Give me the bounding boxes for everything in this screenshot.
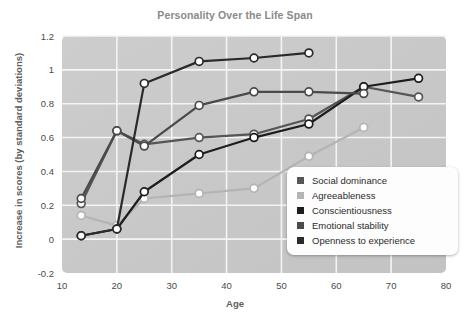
data-point-marker	[360, 124, 368, 132]
y-axis-tick-label: 0	[49, 234, 54, 245]
data-point-marker	[77, 232, 85, 240]
legend-item[interactable]: Social dominance	[295, 173, 450, 188]
data-point-marker	[305, 152, 313, 160]
x-axis-ticks: 1020304050607080	[57, 280, 452, 291]
data-point-marker	[140, 142, 148, 150]
legend-item[interactable]: Openness to experience	[295, 233, 450, 248]
legend-item[interactable]: Emotional stability	[295, 218, 450, 233]
data-point-marker	[250, 184, 258, 192]
data-point-marker	[250, 88, 258, 96]
x-axis-label: Age	[0, 298, 470, 309]
y-axis-tick-label: -0.2	[38, 268, 54, 279]
legend-swatch-icon	[297, 207, 304, 214]
x-axis-tick-label: 10	[57, 280, 68, 291]
x-axis-tick-label: 70	[386, 280, 397, 291]
data-point-marker	[113, 225, 121, 233]
legend-swatch-icon	[297, 177, 304, 184]
data-point-marker	[305, 120, 313, 128]
x-axis-tick-label: 40	[221, 280, 232, 291]
data-point-marker	[195, 190, 203, 198]
data-point-marker	[140, 188, 148, 196]
data-point-marker	[113, 127, 121, 135]
y-axis-tick-label: 0.2	[41, 200, 54, 211]
data-point-marker	[77, 212, 85, 220]
x-axis-tick-label: 30	[166, 280, 177, 291]
legend-item-label: Agreeableness	[312, 188, 375, 203]
data-point-marker	[250, 134, 258, 142]
data-point-marker	[195, 134, 203, 142]
x-axis-tick-label: 80	[441, 280, 452, 291]
legend-item-label: Conscientiousness	[312, 203, 392, 218]
data-point-marker	[195, 151, 203, 159]
data-point-marker	[305, 49, 313, 57]
x-axis-tick-label: 20	[112, 280, 123, 291]
y-axis-ticks: 1.210.80.60.40.20-0.2	[38, 31, 54, 279]
data-point-marker	[140, 80, 148, 88]
data-point-marker	[360, 90, 368, 98]
y-axis-tick-label: 0.8	[41, 98, 54, 109]
data-point-marker	[305, 88, 313, 96]
data-point-marker	[77, 195, 85, 203]
data-point-marker	[415, 93, 423, 101]
legend-item-label: Openness to experience	[312, 233, 415, 248]
data-point-marker	[195, 102, 203, 110]
legend-swatch-icon	[297, 192, 304, 199]
legend-swatch-icon	[297, 222, 304, 229]
data-point-marker	[195, 57, 203, 65]
data-point-marker	[250, 54, 258, 62]
plot-area: 1.210.80.60.40.20-0.2 1020304050607080	[0, 0, 470, 322]
y-axis-tick-label: 1.2	[41, 31, 54, 42]
x-axis-tick-label: 60	[331, 280, 342, 291]
y-axis-tick-label: 0.6	[41, 132, 54, 143]
legend-item[interactable]: Agreeableness	[295, 188, 450, 203]
chart-legend: Social dominanceAgreeablenessConscientio…	[287, 167, 458, 255]
legend-item-label: Emotional stability	[312, 218, 389, 233]
data-point-marker	[415, 74, 423, 82]
y-axis-tick-label: 0.4	[41, 166, 54, 177]
y-axis-tick-label: 1	[49, 64, 54, 75]
x-axis-tick-label: 50	[276, 280, 287, 291]
legend-item[interactable]: Conscientiousness	[295, 203, 450, 218]
legend-item-label: Social dominance	[312, 173, 387, 188]
chart-figure: Personality Over the Life Span Increase …	[0, 0, 470, 322]
legend-swatch-icon	[297, 237, 304, 244]
